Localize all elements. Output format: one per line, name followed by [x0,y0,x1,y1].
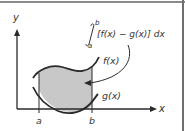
diagram-graphics [0,0,185,131]
area-between-curves-figure: y x b a [f(x) − g(x)] dx f(x) g(x) a b [0,0,185,131]
x-axis-label: x [159,104,165,114]
y-axis-label: y [13,13,19,23]
g-curve-label: g(x) [102,91,121,101]
bound-a-label: a [36,116,42,126]
integral-integrand: [f(x) − g(x)] dx [97,30,165,39]
y-axis-arrow-icon [14,29,20,36]
f-curve-label: f(x) [103,56,119,66]
integral-lower-limit: a [88,43,92,50]
integral-upper-limit: b [95,20,99,27]
x-axis-arrow-icon [150,106,157,112]
bound-b-label: b [89,116,95,126]
